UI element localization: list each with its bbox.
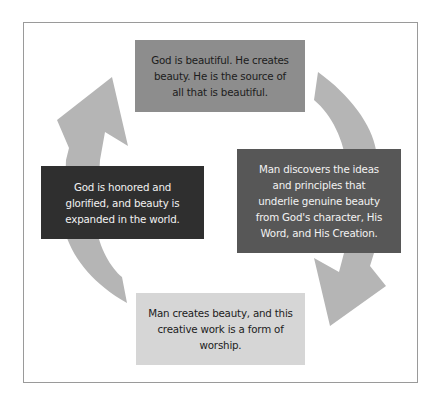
node-text-line: God is beautiful. He creates (151, 52, 289, 68)
node-text-line: Man discovers the ideas (256, 161, 382, 177)
node-text-line: God is honored and (65, 179, 179, 195)
node-text-line: Word, and His Creation. (256, 225, 382, 241)
node-text-line: glorified, and beauty is (65, 195, 179, 211)
node-text-line: and principles that (256, 177, 382, 193)
step-god-is-honored: God is honored and glorified, and beauty… (41, 166, 204, 239)
node-text-line: worship. (148, 337, 293, 353)
node-text-line: beauty. He is the source of (151, 68, 289, 84)
node-text-line: underlie genuine beauty (256, 193, 382, 209)
step-god-is-beautiful: God is beautiful. He creates beauty. He … (135, 40, 305, 112)
node-text-line: expanded in the world. (65, 211, 179, 227)
node-text-line: from God's character, His (256, 209, 382, 225)
node-text-line: Man creates beauty, and this (148, 305, 293, 321)
node-text-line: all that is beautiful. (151, 84, 289, 100)
step-man-discovers: Man discovers the ideas and principles t… (237, 149, 401, 253)
step-man-creates-beauty: Man creates beauty, and this creative wo… (136, 293, 305, 365)
node-text-line: creative work is a form of (148, 321, 293, 337)
